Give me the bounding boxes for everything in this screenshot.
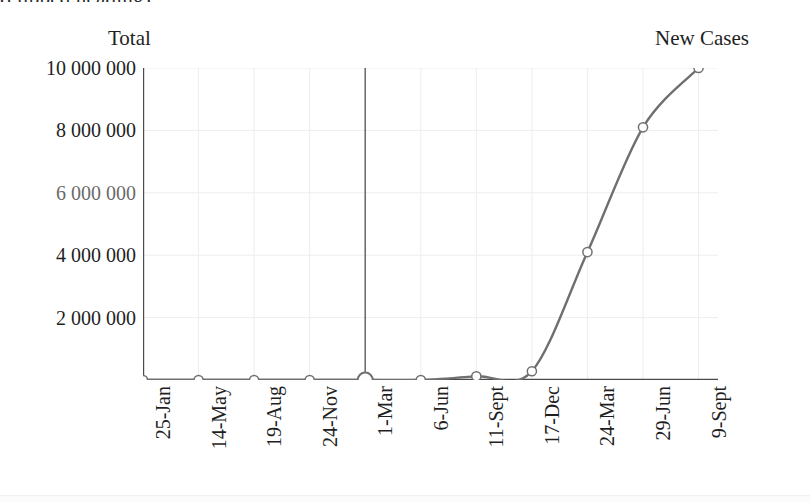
data-point-marker[interactable] bbox=[583, 247, 592, 256]
y-tick-label: 8 000 000 bbox=[4, 119, 136, 142]
page-edge-strip bbox=[0, 495, 810, 502]
data-point-marker[interactable] bbox=[250, 375, 259, 380]
x-tick-label: 19-Aug bbox=[263, 386, 286, 447]
data-point-marker[interactable] bbox=[143, 375, 148, 380]
y-tick-label: 10 000 000 bbox=[4, 57, 136, 80]
x-tick-label: 6-Jun bbox=[430, 386, 453, 430]
data-point-marker[interactable] bbox=[694, 68, 703, 73]
x-tick-label: 11-Sept bbox=[485, 386, 508, 447]
x-tick-label: 17-Dec bbox=[541, 386, 564, 445]
data-point-marker[interactable] bbox=[472, 372, 481, 380]
page-title: (clipped heading) bbox=[0, 0, 430, 2]
x-tick-label: 25-Jan bbox=[152, 386, 175, 439]
y-tick-label: 6 000 000 bbox=[4, 181, 136, 204]
x-tick-label: 24-Nov bbox=[319, 386, 342, 447]
x-axis-labels: 25-Jan14-May19-Aug24-Nov1-Mar6-Jun11-Sep… bbox=[143, 386, 718, 496]
x-tick-label: 9-Sept bbox=[708, 386, 731, 438]
y-axis-labels: 10 000 0008 000 0006 000 0004 000 0002 0… bbox=[0, 68, 136, 380]
data-point-marker[interactable] bbox=[194, 375, 203, 380]
data-point-marker[interactable] bbox=[305, 375, 314, 380]
x-tick-label: 1-Mar bbox=[374, 386, 397, 436]
data-point-marker[interactable] bbox=[416, 375, 425, 380]
x-tick-label: 24-Mar bbox=[596, 386, 619, 446]
plot-area bbox=[143, 68, 718, 380]
y-tick-label: 4 000 000 bbox=[4, 244, 136, 267]
data-point-marker[interactable] bbox=[358, 373, 373, 381]
line-chart-svg bbox=[143, 68, 718, 380]
x-tick-label: 14-May bbox=[208, 386, 231, 449]
new-cases-series-label: New Cases bbox=[655, 26, 749, 51]
data-point-marker[interactable] bbox=[527, 367, 536, 376]
data-point-marker[interactable] bbox=[638, 123, 647, 132]
total-series-label: Total bbox=[108, 26, 151, 51]
x-tick-label: 29-Jun bbox=[652, 386, 675, 440]
y-tick-label: 2 000 000 bbox=[4, 306, 136, 329]
